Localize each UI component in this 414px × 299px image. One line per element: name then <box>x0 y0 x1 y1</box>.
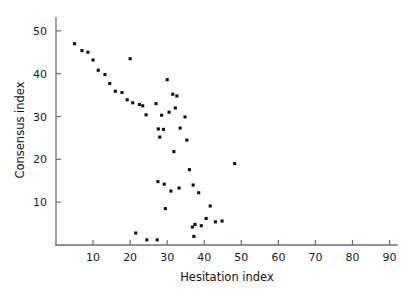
data-point <box>145 238 148 241</box>
data-point <box>191 225 194 228</box>
x-tick-label: 30 <box>160 251 174 264</box>
x-axis-ticks: 102030405060708090 <box>86 240 397 264</box>
axis-lines <box>56 18 397 245</box>
data-point <box>205 217 208 220</box>
data-point <box>156 238 159 241</box>
data-point <box>145 113 148 116</box>
data-point <box>209 204 212 207</box>
y-axis-title: Consensus index <box>13 81 27 178</box>
data-point <box>120 91 123 94</box>
data-point <box>134 231 137 234</box>
data-point <box>214 220 217 223</box>
data-point <box>129 57 132 60</box>
data-point <box>197 191 200 194</box>
data-point <box>73 42 76 45</box>
data-point <box>108 82 111 85</box>
chart-canvas: 102030405060708090 1020304050 Hesitation… <box>0 0 414 299</box>
data-point <box>155 102 158 105</box>
x-tick-label: 60 <box>271 251 285 264</box>
data-point <box>192 235 195 238</box>
data-point <box>97 69 100 72</box>
x-tick-label: 50 <box>234 251 248 264</box>
data-point <box>192 183 195 186</box>
data-point <box>200 224 203 227</box>
x-tick-label: 10 <box>86 251 100 264</box>
data-point <box>179 127 182 130</box>
data-point <box>233 162 236 165</box>
data-point <box>166 78 169 81</box>
data-points-layer <box>73 42 236 241</box>
data-point <box>175 94 178 97</box>
data-point <box>80 49 83 52</box>
x-tick-label: 90 <box>383 251 397 264</box>
data-point <box>163 183 166 186</box>
data-point <box>92 58 95 61</box>
data-point <box>169 189 172 192</box>
y-tick-label: 40 <box>33 68 47 81</box>
x-tick-label: 40 <box>197 251 211 264</box>
data-point <box>188 168 191 171</box>
x-tick-label: 20 <box>123 251 137 264</box>
y-tick-label: 10 <box>33 196 47 209</box>
y-tick-label: 50 <box>33 25 47 38</box>
data-point <box>86 51 89 54</box>
x-tick-label: 70 <box>308 251 322 264</box>
data-point <box>221 219 224 222</box>
data-point <box>178 186 181 189</box>
data-point <box>168 111 171 114</box>
y-tick-label: 30 <box>33 111 47 124</box>
data-point <box>156 180 159 183</box>
data-point <box>171 93 174 96</box>
data-point <box>114 90 117 93</box>
data-point <box>138 103 141 106</box>
data-point <box>141 104 144 107</box>
x-tick-label: 80 <box>346 251 360 264</box>
data-point <box>158 136 161 139</box>
y-tick-label: 20 <box>33 153 47 166</box>
x-axis-title: Hesitation index <box>180 270 274 284</box>
data-point <box>131 101 134 104</box>
data-point <box>172 150 175 153</box>
data-point <box>126 98 129 101</box>
data-point <box>174 106 177 109</box>
scatter-plot-figure: 102030405060708090 1020304050 Hesitation… <box>0 0 414 299</box>
data-point <box>185 139 188 142</box>
data-point <box>160 114 163 117</box>
data-point <box>157 127 160 130</box>
data-point <box>164 207 167 210</box>
y-axis-ticks: 1020304050 <box>33 25 61 209</box>
data-point <box>183 115 186 118</box>
data-point <box>162 128 165 131</box>
data-point <box>103 73 106 76</box>
